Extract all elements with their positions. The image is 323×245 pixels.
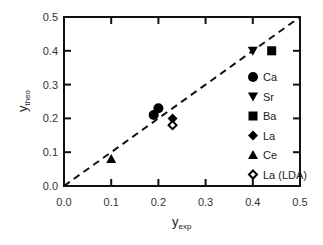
y-tick-label: 0.5 bbox=[43, 11, 58, 23]
x-tick-label: 0.0 bbox=[56, 196, 71, 208]
legend-label: Ce bbox=[263, 149, 277, 161]
legend-item: Sr bbox=[248, 91, 274, 103]
legend-marker-icon bbox=[249, 112, 258, 121]
legend-item: Ba bbox=[249, 110, 278, 122]
data-points bbox=[106, 46, 276, 163]
legend-marker-icon bbox=[248, 93, 258, 102]
x-tick-label: 0.1 bbox=[104, 196, 119, 208]
legend-item: La bbox=[248, 130, 276, 142]
x-tick-label: 0.5 bbox=[292, 196, 307, 208]
legend-label: Sr bbox=[263, 91, 274, 103]
x-tick-label: 0.2 bbox=[151, 196, 166, 208]
data-point-la-lda bbox=[169, 121, 177, 129]
scatter-chart: 0.00.10.20.30.40.5 0.00.10.20.30.40.5 Ca… bbox=[0, 0, 323, 245]
y-tick-label: 0.2 bbox=[43, 112, 58, 124]
data-point-ca bbox=[153, 103, 163, 113]
legend-item: Ca bbox=[248, 71, 278, 83]
legend-label: La (LDA) bbox=[263, 169, 307, 181]
legend-marker-icon bbox=[248, 131, 258, 141]
legend: CaSrBaLaCeLa (LDA) bbox=[248, 71, 307, 181]
y-tick-label: 0.4 bbox=[43, 45, 58, 57]
data-point-ba bbox=[267, 46, 276, 55]
legend-marker-icon bbox=[248, 150, 258, 159]
y-axis-ticks: 0.00.10.20.30.40.5 bbox=[43, 11, 300, 192]
x-tick-label: 0.4 bbox=[245, 196, 260, 208]
y-tick-label: 0.1 bbox=[43, 146, 58, 158]
y-axis-title: ytheo bbox=[15, 89, 32, 112]
legend-marker-icon bbox=[249, 171, 257, 179]
legend-item: Ce bbox=[248, 149, 277, 161]
legend-label: Ca bbox=[263, 71, 278, 83]
y-tick-label: 0.0 bbox=[43, 180, 58, 192]
x-tick-label: 0.3 bbox=[198, 196, 213, 208]
legend-marker-icon bbox=[248, 72, 258, 82]
data-point-sr bbox=[248, 47, 258, 56]
y-tick-label: 0.3 bbox=[43, 79, 58, 91]
legend-item: La (LDA) bbox=[249, 169, 307, 181]
x-axis-title: yexp bbox=[172, 214, 192, 231]
legend-label: La bbox=[263, 130, 276, 142]
legend-label: Ba bbox=[263, 110, 277, 122]
